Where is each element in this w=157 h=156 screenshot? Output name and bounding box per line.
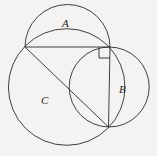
triangle-hypotenuse [25,47,109,127]
region-label-a: A [62,18,69,29]
region-label-b: B [119,84,126,95]
triangle-vertical-leg [109,47,111,127]
geometry-canvas [0,0,157,156]
geometry-figure: A B C [0,0,157,156]
right-angle-marker [99,47,110,58]
region-label-c: C [41,95,48,106]
